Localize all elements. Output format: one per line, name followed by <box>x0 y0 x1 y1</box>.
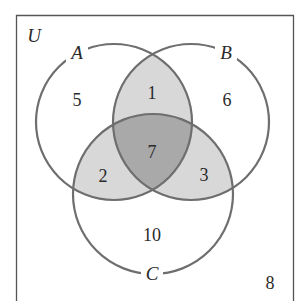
set-b-label: B <box>220 42 232 63</box>
universe-label: U <box>27 25 42 46</box>
region-b-and-c-count: 3 <box>200 165 209 185</box>
region-only-a-count: 5 <box>73 90 82 110</box>
set-a-label: A <box>69 42 83 63</box>
set-c-label: C <box>146 263 159 284</box>
region-a-and-b-and-c-count: 7 <box>148 142 157 162</box>
region-only-b-count: 6 <box>223 90 232 110</box>
region-a-and-c-count: 2 <box>99 166 108 186</box>
region-outside-count: 8 <box>266 273 275 293</box>
venn-diagram: U A B C 5 1 6 7 2 3 10 8 <box>0 0 300 301</box>
region-a-and-b-count: 1 <box>148 83 157 103</box>
region-only-c-count: 10 <box>143 225 161 245</box>
